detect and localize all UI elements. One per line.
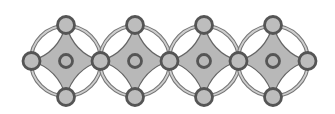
- top-atom-1: [58, 17, 75, 34]
- unit-chain-diagram: [0, 0, 335, 114]
- center-atom-3: [198, 55, 211, 68]
- bottom-atom-1: [58, 89, 75, 106]
- center-atom-4: [267, 55, 280, 68]
- side-atom-1: [23, 53, 40, 70]
- bottom-atom-2: [127, 89, 144, 106]
- center-atom-1: [60, 55, 73, 68]
- bottom-atom-4: [265, 89, 282, 106]
- top-atom-3: [196, 17, 213, 34]
- side-atom-3: [161, 53, 178, 70]
- side-atom-2: [92, 53, 109, 70]
- side-atom-5: [299, 53, 316, 70]
- top-atom-4: [265, 17, 282, 34]
- center-atom-2: [129, 55, 142, 68]
- top-atom-2: [127, 17, 144, 34]
- bottom-atom-3: [196, 89, 213, 106]
- side-atom-4: [230, 53, 247, 70]
- atoms: [23, 17, 316, 106]
